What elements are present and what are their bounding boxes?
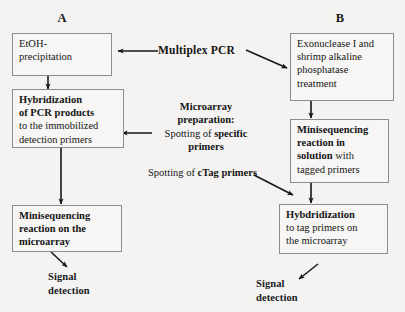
- box-minisequencing-right-line2: reaction in: [297, 136, 383, 149]
- flowchart-canvas: A B EtOH- precipitation Hybridization of…: [0, 0, 405, 312]
- microarray-title-line2: preparation:: [148, 113, 264, 126]
- box-hybdridization-bold-line1: Hybdridization: [286, 208, 382, 221]
- arrow-minisequencing-to-signal-left: [51, 252, 67, 267]
- arrow-hybdridization-to-signal-right: [299, 264, 318, 279]
- box-hybdridization-plain-line1: to tag primers on: [286, 221, 382, 234]
- column-label-b: B: [290, 12, 390, 25]
- box-minisequencing-solution[interactable]: Minisequencing reaction in solution with…: [290, 119, 389, 183]
- spotting-ctag-prefix: Spotting of: [148, 167, 198, 178]
- signal-detection-left-line2: detection: [48, 284, 90, 298]
- spotting-specific-bold2: primers: [148, 140, 264, 153]
- box-minisequencing-right-line3: solution with: [297, 149, 383, 162]
- spotting-specific-bold1: specific: [214, 128, 247, 139]
- box-minisequencing-microarray[interactable]: Minisequencing reaction on the microarra…: [12, 205, 122, 252]
- box-exonuclease-line4: treatment: [297, 77, 388, 90]
- box-minisequencing-right-bold3: solution: [297, 150, 333, 161]
- spotting-ctag-bold: cTag primers: [198, 167, 257, 178]
- box-hybdridization-tag-primers[interactable]: Hybdridization to tag primers on the mic…: [279, 204, 388, 254]
- box-hybdridization-plain-line2: the microarray: [286, 234, 382, 247]
- box-minisequencing-right-line1: Minisequencing: [297, 123, 383, 136]
- column-label-a: A: [12, 12, 112, 25]
- box-minisequencing-right-line4: tagged primers: [297, 163, 383, 176]
- signal-detection-right-line2: detection: [256, 291, 298, 305]
- box-hybridization-plain-line2: detection primers: [19, 133, 118, 146]
- box-etoh-line1: EtOH-: [19, 37, 106, 50]
- microarray-title-line1: Microarray: [148, 100, 264, 113]
- box-hybridization-pcr-products[interactable]: Hybridization of PCR products to the imm…: [12, 89, 124, 148]
- box-minisequencing-left-line1: Minisequencing: [19, 209, 116, 222]
- box-minisequencing-left-line2: reaction on the: [19, 222, 116, 235]
- signal-detection-right-line1: Signal: [256, 277, 298, 291]
- box-exonuclease-line2: shrimp alkaline: [297, 50, 388, 63]
- box-exonuclease-line1: Exonuclease I and: [297, 37, 388, 50]
- box-minisequencing-left-line3: microarray: [19, 235, 116, 248]
- box-hybridization-bold-line1: Hybridization: [19, 93, 118, 106]
- box-etoh-precipitation[interactable]: EtOH- precipitation: [12, 33, 112, 76]
- box-etoh-line2: precipitation: [19, 50, 106, 63]
- label-multiplex-pcr: Multiplex PCR: [158, 44, 235, 57]
- spotting-specific-line1: Spotting of specific: [148, 127, 264, 140]
- signal-detection-left: Signal detection: [48, 270, 90, 297]
- box-exonuclease-line3: phosphatase: [297, 63, 388, 76]
- spotting-specific-prefix: Spotting of: [165, 128, 215, 139]
- signal-detection-left-line1: Signal: [48, 270, 90, 284]
- box-exonuclease-treatment[interactable]: Exonuclease I and shrimp alkaline phosph…: [290, 33, 394, 101]
- box-hybridization-plain-line1: to the immobilized: [19, 119, 118, 132]
- box-hybridization-bold-line2: of PCR products: [19, 106, 118, 119]
- microarray-preparation-block: Microarray preparation: Spotting of spec…: [148, 100, 264, 154]
- box-minisequencing-right-tail: with: [333, 150, 354, 161]
- arrow-ctag-to-hybdridization: [254, 175, 293, 195]
- arrow-pcr-to-exonuclease: [246, 50, 287, 68]
- signal-detection-right: Signal detection: [256, 277, 298, 304]
- spotting-ctag-line: Spotting of cTag primers: [148, 166, 257, 179]
